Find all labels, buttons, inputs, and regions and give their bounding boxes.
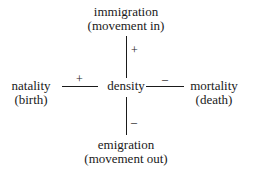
density-node: density xyxy=(100,79,152,93)
mortality-node: mortality (death) xyxy=(186,79,242,107)
immigration-connector xyxy=(126,36,127,78)
emigration-sublabel: (movement out) xyxy=(76,152,176,166)
mortality-connector xyxy=(146,86,184,87)
immigration-sign: + xyxy=(131,44,138,56)
natality-sublabel: (birth) xyxy=(4,93,58,107)
emigration-label: emigration xyxy=(76,138,176,152)
emigration-sign: – xyxy=(131,116,137,128)
natality-label: natality xyxy=(4,79,58,93)
mortality-label: mortality xyxy=(186,79,242,93)
emigration-connector xyxy=(126,97,127,135)
mortality-sign: – xyxy=(162,73,168,85)
natality-connector xyxy=(62,86,98,87)
immigration-sublabel: (movement in) xyxy=(76,19,176,33)
natality-node: natality (birth) xyxy=(4,79,58,107)
emigration-node: emigration (movement out) xyxy=(76,138,176,166)
immigration-node: immigration (movement in) xyxy=(76,5,176,33)
immigration-label: immigration xyxy=(76,5,176,19)
mortality-sublabel: (death) xyxy=(186,93,242,107)
natality-sign: + xyxy=(76,73,83,85)
